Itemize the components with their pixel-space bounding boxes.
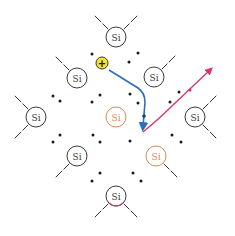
valence-electron-icon — [132, 172, 135, 175]
electron-path-marker-icon — [188, 88, 191, 91]
valence-electron-icon — [59, 134, 62, 137]
si-atom: Si — [146, 146, 166, 166]
bond-line — [103, 24, 109, 30]
silicon-lattice-diagram: SiSiSiSiSiSiSiSiSi + — [0, 0, 235, 236]
valence-electron-icon — [52, 95, 55, 98]
bond-line — [124, 204, 130, 210]
bond-line — [15, 96, 21, 102]
bond-line — [169, 56, 175, 62]
si-atom-label: Si — [149, 73, 158, 83]
bond-line — [131, 211, 137, 217]
si-atom-label: Si — [190, 113, 199, 123]
bond-line — [124, 24, 130, 30]
si-atom: Si — [185, 107, 205, 127]
si-atom: Si — [67, 68, 87, 88]
si-atom: Si — [26, 107, 46, 127]
valence-electron-icon — [137, 52, 140, 55]
si-atom-label: Si — [31, 113, 40, 123]
si-atom-label: Si — [111, 33, 120, 43]
bond-line — [64, 164, 70, 170]
valence-electron-icon — [128, 61, 131, 64]
valence-electron-icon — [99, 141, 102, 144]
bond-line — [95, 211, 101, 217]
valence-electron-icon — [59, 100, 62, 103]
si-atom-label: Si — [111, 113, 120, 123]
valence-electron-icon — [91, 180, 94, 183]
bond-line — [95, 16, 101, 22]
valence-electron-icon — [91, 101, 94, 104]
valence-electron-icon — [52, 141, 55, 144]
valence-electron-icon — [92, 134, 95, 137]
si-atom-label: Si — [72, 152, 81, 162]
bond-line — [15, 132, 21, 138]
hole-path-marker-icon — [142, 114, 145, 117]
si-atom-label: Si — [72, 74, 81, 84]
valence-electron-icon — [137, 102, 140, 105]
bond-line — [203, 125, 209, 131]
bond-line — [171, 171, 177, 177]
bond-line — [203, 104, 209, 110]
valence-electron-icon — [140, 180, 143, 183]
bond-line — [164, 164, 170, 170]
si-atom: Si — [106, 27, 126, 47]
valence-electron-icon — [178, 91, 181, 94]
bond-line — [23, 104, 29, 110]
bond-line — [162, 64, 168, 70]
valence-electron-icon — [169, 101, 172, 104]
atoms-layer: SiSiSiSiSiSiSiSiSi — [26, 27, 205, 206]
valence-electron-icon — [129, 93, 132, 96]
bond-line — [64, 65, 70, 71]
si-atom: Si — [67, 146, 87, 166]
si-atom: Si — [144, 67, 164, 87]
bond-line — [210, 96, 216, 102]
bond-line — [56, 171, 62, 177]
si-atom-label: Si — [111, 192, 120, 202]
valence-electron-icon — [99, 172, 102, 175]
bond-line — [210, 132, 216, 138]
bond-line — [103, 204, 109, 210]
si-atom: Si — [106, 186, 126, 206]
valence-electron-icon — [91, 53, 94, 56]
valence-electron-icon — [180, 141, 183, 144]
bond-line — [131, 16, 137, 22]
hole-label: + — [98, 58, 106, 69]
valence-electron-icon — [171, 134, 174, 137]
bond-line — [56, 57, 62, 63]
valence-electron-icon — [129, 140, 132, 143]
si-atom-label: Si — [151, 152, 160, 162]
bond-line — [23, 125, 29, 131]
hole-icon: + — [96, 57, 108, 69]
si-atom: Si — [106, 107, 126, 127]
valence-electron-icon — [99, 94, 102, 97]
